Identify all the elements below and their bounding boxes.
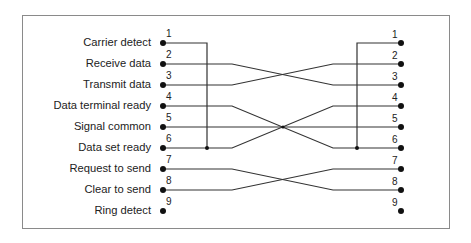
left-pin-dot xyxy=(160,61,166,67)
right-pin-dot xyxy=(398,145,404,151)
right-pin-dot xyxy=(398,61,404,67)
right-pin-dot xyxy=(398,40,404,46)
right-pin-dot xyxy=(398,166,404,172)
left-pin-dot xyxy=(160,103,166,109)
null-modem-wiring-diagram xyxy=(0,0,471,243)
left-pin-number: 6 xyxy=(166,134,172,144)
pin-label-clear-to-send: Clear to send xyxy=(84,183,151,195)
wire-l8-r7 xyxy=(163,169,401,190)
right-pin-dot xyxy=(398,208,404,214)
left-pin-number: 4 xyxy=(166,92,172,102)
left-pin-dot xyxy=(160,208,166,214)
right-pin-number: 6 xyxy=(392,135,398,145)
pin-label-data-set-ready: Data set ready xyxy=(78,141,151,153)
left-pin-dot xyxy=(160,82,166,88)
left-pin-number: 9 xyxy=(166,197,172,207)
pin-label-request-to-send: Request to send xyxy=(70,162,151,174)
left-pin-dot xyxy=(160,124,166,130)
right-pin-number: 4 xyxy=(392,93,398,103)
pin-label-carrier-detect: Carrier detect xyxy=(83,36,151,48)
right-pin-number: 7 xyxy=(392,156,398,166)
pin-label-receive-data: Receive data xyxy=(86,57,151,69)
wire-l3-r2 xyxy=(163,64,401,85)
left-pin-number: 1 xyxy=(166,29,172,39)
right-pin-dot xyxy=(398,187,404,193)
junction-dot xyxy=(355,146,359,150)
right-pin-dot xyxy=(398,82,404,88)
right-pin-number: 9 xyxy=(392,198,398,208)
right-pin-dot xyxy=(398,124,404,130)
left-pin-dot xyxy=(160,145,166,151)
left-pin-number: 3 xyxy=(166,71,172,81)
right-pin-number: 5 xyxy=(392,114,398,124)
junction-dot xyxy=(281,125,284,128)
junction-dot xyxy=(205,146,209,150)
left-pin-number: 8 xyxy=(166,176,172,186)
pin-label-data-terminal-ready: Data terminal ready xyxy=(53,99,151,111)
left-pin-dot xyxy=(160,187,166,193)
left-pin-dot xyxy=(160,40,166,46)
right-pin-dot xyxy=(398,103,404,109)
right-pin-number: 8 xyxy=(392,177,398,187)
right-pin-number: 1 xyxy=(392,30,398,40)
right-pin-number: 3 xyxy=(392,72,398,82)
pin-label-signal-common: Signal common xyxy=(74,120,151,132)
left-pin-number: 7 xyxy=(166,155,172,165)
right-pin-number: 2 xyxy=(392,51,398,61)
pin-label-ring-detect: Ring detect xyxy=(94,204,151,216)
left-pin-number: 2 xyxy=(166,50,172,60)
left-pin-number: 5 xyxy=(166,113,172,123)
pin-label-transmit-data: Transmit data xyxy=(83,78,151,90)
left-pin-dot xyxy=(160,166,166,172)
